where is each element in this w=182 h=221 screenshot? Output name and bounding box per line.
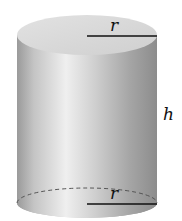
height-label: h xyxy=(163,104,174,124)
top-radius-label: r xyxy=(110,15,119,35)
bottom-radius-label: r xyxy=(110,183,119,203)
cylinder-diagram: r r h xyxy=(0,0,182,221)
cylinder-body xyxy=(17,35,157,218)
cylinder-top-face xyxy=(17,15,157,55)
